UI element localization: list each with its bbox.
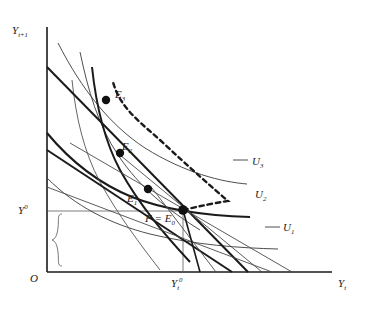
origin-label: O: [30, 272, 38, 284]
point-label-e3: E3: [115, 88, 125, 102]
figure-canvas: Yt+1 Yt O Y0 Yt0 U1 U2 U3 F = E0 E1 E2 E…: [0, 0, 368, 313]
bracket-group: [52, 214, 62, 266]
point-e3-marker: [102, 96, 110, 104]
x-axis-label: Yt: [338, 277, 346, 291]
point-label-e2: E2: [122, 140, 132, 154]
budget-line-3: [47, 187, 272, 272]
indifference-curve-u3: [58, 43, 247, 184]
curly-brace: [52, 214, 62, 266]
point-label-e1: E1: [127, 192, 137, 206]
y-tick-label-y0: Y0: [18, 203, 28, 216]
curve-label-u1: U1: [283, 221, 294, 235]
y-axis-label: Yt+1: [12, 24, 28, 38]
diagram-svg: [0, 0, 368, 313]
indifference-curve-u2: [47, 133, 250, 217]
point-e0-marker: [178, 205, 188, 215]
x-tick-label-yt0: Yt0: [171, 276, 182, 291]
point-label-e0: F = E0: [145, 212, 175, 226]
budget-line-5: [120, 155, 262, 272]
curve-label-u3: U3: [252, 155, 263, 169]
curve-label-u2: U2: [255, 188, 266, 202]
point-e1-marker: [144, 185, 152, 193]
